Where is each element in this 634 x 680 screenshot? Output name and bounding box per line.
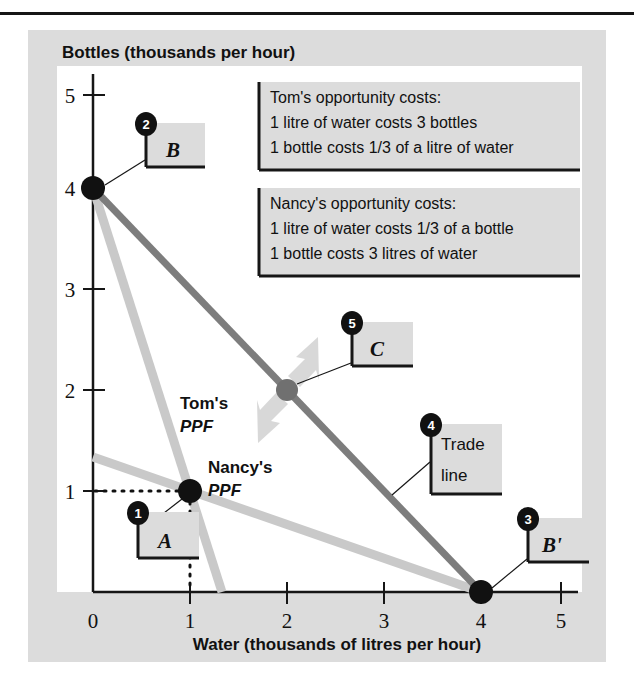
data-point-c[interactable] — [276, 379, 298, 401]
callout-b-prime-label: B' — [541, 533, 562, 557]
x-axis-title: Water (thousands of litres per hour) — [193, 635, 481, 654]
note-box-nancys-opportunity-costs: Nancy's opportunity costs: 1 litre of wa… — [258, 188, 580, 276]
callout-b-prime-number: 3 — [524, 512, 531, 527]
annotation-nancys-ppf: Nancy's PPF — [208, 458, 273, 500]
note-box-2-line-3: 1 bottle costs 3 litres of water — [270, 245, 478, 262]
x-tick-label-4: 4 — [476, 609, 487, 633]
callout-b-prime-leader — [492, 559, 527, 588]
callout-trade-line-leader — [392, 462, 430, 495]
y-tick-label-4: 4 — [65, 177, 76, 201]
callout-c-number: 5 — [348, 316, 355, 331]
note-box-2-line-2: 1 litre of water costs 1/3 of a bottle — [270, 220, 514, 237]
annotation-toms-ppf: Tom's PPF — [180, 394, 228, 436]
ppf-trade-chart: Bottles (thousands per hour) Water (thou… — [0, 0, 634, 680]
toms-ppf-label-line2: PPF — [180, 417, 214, 436]
data-point-b-prime[interactable] — [469, 580, 493, 604]
note-box-2-line-1: Nancy's opportunity costs: — [270, 195, 456, 212]
trade-arrow-bottles-icon — [288, 337, 319, 387]
callout-c-label: C — [370, 337, 385, 361]
data-point-b[interactable] — [81, 176, 105, 200]
x-tick-label-3: 3 — [379, 609, 390, 633]
note-box-1-line-1: Tom's opportunity costs: — [270, 89, 441, 106]
callout-b-leader — [105, 160, 145, 185]
y-axis-title: Bottles (thousands per hour) — [62, 43, 295, 62]
callout-a-number: 1 — [134, 506, 141, 521]
y-axis-tick-labels: 1 2 3 4 5 — [65, 84, 76, 504]
x-axis-tick-labels: 0 1 2 3 4 5 — [88, 609, 567, 633]
x-tick-label-5: 5 — [556, 609, 567, 633]
nancys-ppf-label-line2: PPF — [208, 481, 242, 500]
trade-arrow-water-icon — [257, 393, 288, 443]
callout-b[interactable]: B 2 — [105, 112, 205, 185]
callout-trade-line-label-line1: Trade — [441, 435, 485, 454]
y-tick-label-3: 3 — [65, 278, 76, 302]
callout-b-prime[interactable]: B' 3 — [492, 507, 589, 588]
note-box-1-line-3: 1 bottle costs 1/3 of a litre of water — [270, 139, 514, 156]
toms-ppf-label-line1: Tom's — [180, 394, 228, 413]
callout-b-number: 2 — [142, 117, 149, 132]
figure-container: Bottles (thousands per hour) Water (thou… — [0, 0, 634, 680]
callout-trade-line[interactable]: Trade line 4 — [392, 413, 502, 495]
callout-a-label: A — [156, 529, 172, 553]
note-box-toms-opportunity-costs: Tom's opportunity costs: 1 litre of wate… — [258, 82, 580, 170]
callout-trade-line-label-line2: line — [441, 466, 467, 485]
callout-trade-line-number: 4 — [427, 418, 435, 433]
x-tick-label-2: 2 — [282, 609, 293, 633]
x-tick-label-0: 0 — [88, 609, 99, 633]
y-tick-label-2: 2 — [65, 379, 76, 403]
y-tick-label-5: 5 — [65, 84, 76, 108]
x-tick-label-1: 1 — [185, 609, 196, 633]
y-tick-label-1: 1 — [65, 480, 76, 504]
nancys-ppf-label-line1: Nancy's — [208, 458, 273, 477]
callout-b-label: B — [165, 138, 180, 162]
callout-a[interactable]: A 1 — [127, 499, 199, 558]
note-box-1-line-2: 1 litre of water costs 3 bottles — [270, 114, 477, 131]
